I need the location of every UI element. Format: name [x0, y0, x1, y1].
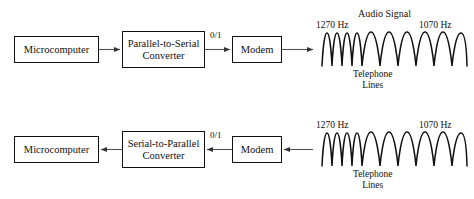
audio-signal-caption: Audio Signal	[358, 8, 411, 19]
node-serial-to-parallel-converter[interactable]: Serial-to-ParallelConverter	[122, 131, 205, 168]
block-diagram-canvas: Microcomputer Parallel-to-SerialConverte…	[0, 0, 474, 199]
node-label-line2: Converter	[142, 150, 184, 161]
waveform-bottom	[322, 132, 467, 166]
signal-label-transmit: 0/1	[210, 30, 222, 40]
frequency-label-1270-receive: 1270 Hz	[316, 120, 348, 131]
node-microcomputer-receive[interactable]: Microcomputer	[14, 136, 99, 163]
frequency-label-1070-receive: 1070 Hz	[419, 120, 451, 131]
telephone-lines-line2: Lines	[353, 80, 392, 91]
node-label: Modem	[238, 44, 277, 56]
telephone-lines-label-receive: TelephoneLines	[353, 169, 392, 190]
node-label-line2: Converter	[142, 50, 184, 61]
connector-layer	[0, 0, 474, 199]
frequency-label-1070-transmit: 1070 Hz	[419, 20, 451, 31]
node-label: Serial-to-ParallelConverter	[125, 138, 203, 162]
node-label: Microcomputer	[21, 144, 92, 156]
telephone-lines-line2: Lines	[353, 180, 392, 191]
telephone-lines-line1: Telephone	[353, 69, 392, 80]
node-parallel-to-serial-converter[interactable]: Parallel-to-SerialConverter	[122, 31, 205, 68]
telephone-lines-line1: Telephone	[353, 169, 392, 180]
node-modem-transmit[interactable]: Modem	[232, 36, 282, 63]
node-modem-receive[interactable]: Modem	[232, 136, 282, 163]
frequency-label-1270-transmit: 1270 Hz	[316, 20, 348, 31]
node-label-line1: Parallel-to-Serial	[128, 38, 200, 49]
node-label: Microcomputer	[21, 44, 92, 56]
node-label-line1: Serial-to-Parallel	[128, 138, 200, 149]
node-microcomputer-transmit[interactable]: Microcomputer	[14, 36, 99, 63]
signal-label-receive: 0/1	[210, 130, 222, 140]
telephone-lines-label-transmit: TelephoneLines	[353, 69, 392, 90]
waveform-top	[322, 32, 467, 66]
node-label: Parallel-to-SerialConverter	[125, 38, 203, 62]
node-label: Modem	[238, 144, 277, 156]
